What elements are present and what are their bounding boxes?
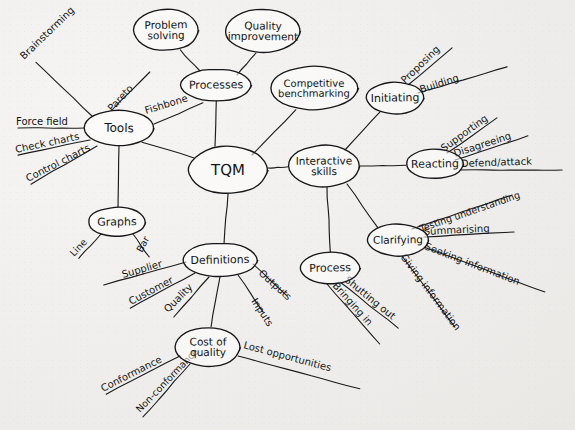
node-label-tqm: TQM xyxy=(210,161,245,179)
edge-interactive-skills-to-process xyxy=(327,187,330,252)
mindmap-sheet: BrainstormingParetoFishboneForce fieldCh… xyxy=(0,0,575,430)
leaf-label-definitions-4[interactable]: Outputs xyxy=(257,267,294,302)
edge-tqm-to-processes xyxy=(215,101,216,146)
node-label-graphs: Graphs xyxy=(97,215,137,229)
node-label-process: Process xyxy=(309,261,351,275)
node-label-reacting: Reacting xyxy=(411,157,459,171)
edge-processes-to-quality-improvement xyxy=(237,53,256,75)
leaf-label-clarifying-3[interactable]: Giving information xyxy=(398,252,463,333)
mindmap-canvas: BrainstormingParetoFishboneForce fieldCh… xyxy=(0,0,575,430)
edge-tqm-to-definitions xyxy=(224,194,228,243)
leaf-line-tools-3 xyxy=(18,128,84,129)
edge-tqm-to-tools xyxy=(142,142,194,158)
node-label-processes: Processes xyxy=(189,78,244,92)
node-label-cost-of-quality: Cost ofquality xyxy=(190,336,227,359)
leaf-label-tools-3[interactable]: Force field xyxy=(16,116,68,127)
edge-interactive-skills-to-reacting xyxy=(360,165,406,166)
leaf-label-graphs-0[interactable]: Line xyxy=(67,236,89,258)
node-label-tools: Tools xyxy=(103,121,134,135)
leaf-label-clarifying-2[interactable]: Seeking information xyxy=(423,241,521,287)
leaf-label-definitions-3[interactable]: Inputs xyxy=(249,296,275,328)
leaf-label-cost-of-quality-2[interactable]: Lost opportunities xyxy=(242,339,332,373)
leaf-label-definitions-0[interactable]: Supplier xyxy=(121,258,164,280)
edge-interactive-skills-to-initiating xyxy=(345,112,380,150)
edge-interactive-skills-to-clarifying xyxy=(347,184,378,228)
leaf-label-graphs-1[interactable]: Bar xyxy=(134,234,151,254)
leaf-label-tools-0[interactable]: Brainstorming xyxy=(18,4,76,61)
node-label-definitions: Definitions xyxy=(190,253,249,267)
node-label-clarifying: Clarifying xyxy=(373,233,423,246)
node-label-competitive-benchmarking: Competitivebenchmarking xyxy=(278,78,350,99)
edge-processes-to-problem-solving xyxy=(180,50,200,71)
node-label-initiating: Initiating xyxy=(371,91,420,105)
edge-tqm-to-graphs xyxy=(118,146,119,207)
node-layer: ToolsProcessesProblemsolvingQualityimpro… xyxy=(84,9,464,366)
leaf-layer: BrainstormingParetoFishboneForce fieldCh… xyxy=(14,4,562,416)
leaf-line-tools-0 xyxy=(36,62,92,116)
edge-tqm-to-competitive-benchmarking xyxy=(252,110,296,155)
leaf-label-clarifying-1[interactable]: Summarising xyxy=(424,223,490,237)
leaf-label-tools-1[interactable]: Pareto xyxy=(105,83,135,114)
edge-definitions-to-cost-of-quality xyxy=(211,277,220,327)
leaf-label-reacting-2[interactable]: Defend/attack xyxy=(461,156,533,169)
node-label-problem-solving: Problemsolving xyxy=(144,18,187,41)
edge-tqm-to-interactive-skills xyxy=(268,167,288,168)
leaf-label-initiating-1[interactable]: Building xyxy=(418,72,460,95)
